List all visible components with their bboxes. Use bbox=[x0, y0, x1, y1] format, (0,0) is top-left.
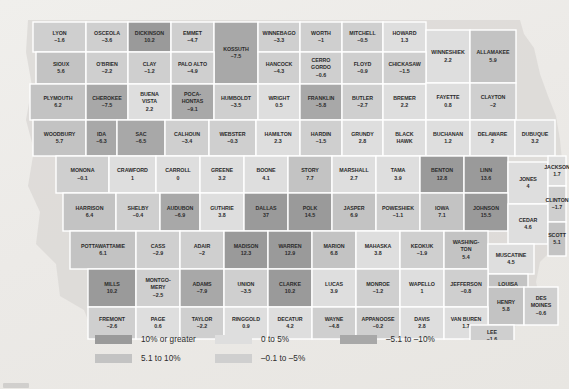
county-pocahontas[interactable]: POCA-HONTAS–9.1 bbox=[171, 84, 214, 120]
county-winneshiek[interactable]: WINNESHIEK2.2 bbox=[426, 30, 470, 83]
county-adams[interactable]: ADAMS–7.9 bbox=[180, 269, 224, 307]
county-clay[interactable]: CLAY–1.2 bbox=[128, 52, 171, 84]
county-value-jefferson: –0.8 bbox=[461, 288, 471, 294]
legend-column-1: 10% or greater 5.1 to 10% bbox=[95, 332, 196, 370]
county-ida[interactable]: IDA–6.3 bbox=[86, 120, 117, 156]
county-value-johnson: 15.5 bbox=[481, 212, 491, 218]
county-delaware[interactable]: DELAWARE2 bbox=[470, 120, 515, 156]
county-monroe[interactable]: MONROE–1.2 bbox=[356, 269, 400, 307]
county-mills[interactable]: MILLS10.2 bbox=[88, 269, 136, 307]
county-crawford[interactable]: CRAWFORD1 bbox=[109, 156, 156, 193]
county-obrien[interactable]: O’BRIEN–2.2 bbox=[86, 52, 128, 84]
county-dallas[interactable]: DALLAS37 bbox=[244, 193, 288, 231]
county-worth[interactable]: WORTH–1 bbox=[300, 22, 342, 52]
county-dubuque[interactable]: DUBUQUE3.2 bbox=[515, 120, 555, 156]
county-poweshiek[interactable]: POWESHIEK–1.1 bbox=[376, 193, 420, 231]
county-butler[interactable]: BUTLER–2.7 bbox=[342, 84, 383, 120]
county-cass[interactable]: CASS–2.9 bbox=[136, 231, 180, 269]
county-cherokee[interactable]: CHEROKEE–7.5 bbox=[86, 84, 128, 120]
county-marshall[interactable]: MARSHALL2.7 bbox=[332, 156, 376, 193]
county-hardin[interactable]: HARDIN–1.5 bbox=[300, 120, 342, 156]
county-hancock[interactable]: HANCOCK–4.3 bbox=[258, 52, 300, 84]
county-sioux[interactable]: SIOUX5.6 bbox=[36, 52, 86, 84]
county-linn[interactable]: LINN13.6 bbox=[464, 156, 508, 193]
county-mitchell[interactable]: MITCHELL–0.5 bbox=[342, 22, 383, 52]
county-johnson[interactable]: JOHNSON15.5 bbox=[464, 193, 508, 231]
county-emmet[interactable]: EMMET–4.7 bbox=[171, 22, 214, 52]
county-marion[interactable]: MARION6.8 bbox=[312, 231, 356, 269]
county-name-winnebago: WINNEBAGO bbox=[262, 30, 295, 36]
county-allamakee[interactable]: ALLAMAKEE5.9 bbox=[470, 30, 516, 83]
county-lucas[interactable]: LUCAS3.9 bbox=[312, 269, 356, 307]
county-dickinson[interactable]: DICKINSON10.2 bbox=[128, 22, 171, 52]
county-calhoun[interactable]: CALHOUN–3.4 bbox=[165, 120, 209, 156]
county-name-davis: DAVIS bbox=[414, 316, 430, 322]
county-carroll[interactable]: CARROLL0 bbox=[156, 156, 200, 193]
county-franklin[interactable]: FRANKLIN–5.8 bbox=[300, 84, 342, 120]
county-kossuth[interactable]: KOSSUTH–7.5 bbox=[214, 22, 258, 84]
county-wapello[interactable]: WAPELLO1 bbox=[400, 269, 444, 307]
county-bremer[interactable]: BREMER2.2 bbox=[383, 84, 426, 120]
county-hamilton[interactable]: HAMILTON2.3 bbox=[256, 120, 300, 156]
county-jasper[interactable]: JASPER6.9 bbox=[332, 193, 376, 231]
county-grundy[interactable]: GRUNDY2.8 bbox=[342, 120, 383, 156]
county-value-monona: –0.1 bbox=[77, 175, 87, 181]
county-jackson[interactable]: JACKSON1.7 bbox=[544, 156, 569, 186]
county-keokuk[interactable]: KEOKUK–1.9 bbox=[400, 231, 444, 269]
county-jones[interactable]: JONES4 bbox=[508, 162, 548, 204]
county-sac[interactable]: SAC–6.5 bbox=[117, 120, 165, 156]
county-cerrogordo[interactable]: CERROGORDO–0.6 bbox=[300, 52, 342, 84]
county-wright[interactable]: WRIGHT0.5 bbox=[258, 84, 300, 120]
county-washington[interactable]: WASHING-TON5.4 bbox=[444, 231, 488, 269]
county-blackhawk[interactable]: BLACKHAWK bbox=[383, 120, 426, 156]
county-montgomery[interactable]: MONTGO-MERY–2.5 bbox=[136, 269, 180, 307]
county-winnebago[interactable]: WINNEBAGO–3.3 bbox=[258, 22, 300, 52]
county-greene[interactable]: GREENE3.2 bbox=[200, 156, 244, 193]
county-story[interactable]: STORY7.7 bbox=[288, 156, 332, 193]
county-mahaska[interactable]: MAHASKA3.8 bbox=[356, 231, 400, 269]
county-clarke[interactable]: CLARKE10.2 bbox=[268, 269, 312, 307]
county-warren[interactable]: WARREN12.9 bbox=[268, 231, 312, 269]
county-cedar[interactable]: CEDAR4.6 bbox=[508, 204, 548, 244]
county-desmoines[interactable]: DESMOINES–0.6 bbox=[524, 287, 558, 325]
county-muscatine[interactable]: MUSCATINE4.5 bbox=[488, 244, 534, 274]
county-pottawattamie[interactable]: POTTAWATTAMIE6.1 bbox=[70, 231, 136, 269]
county-shelby[interactable]: SHELBY–0.4 bbox=[116, 193, 160, 231]
county-fayette[interactable]: FAYETTE0.8 bbox=[426, 83, 470, 120]
county-buenavista[interactable]: BUENAVISTA2.2 bbox=[128, 84, 171, 120]
county-union[interactable]: UNION–3.5 bbox=[224, 269, 268, 307]
county-benton[interactable]: BENTON12.8 bbox=[420, 156, 464, 193]
county-audubon[interactable]: AUDUBON–6.9 bbox=[160, 193, 200, 231]
county-scott[interactable]: SCOTT5.1 bbox=[548, 222, 567, 256]
county-webster[interactable]: WEBSTER–0.3 bbox=[209, 120, 256, 156]
county-adair[interactable]: ADAIR–2 bbox=[180, 231, 224, 269]
county-value-emmet: –4.7 bbox=[187, 37, 197, 43]
county-polk[interactable]: POLK14.5 bbox=[288, 193, 332, 231]
county-jefferson[interactable]: JEFFERSON–0.8 bbox=[444, 269, 488, 307]
county-clinton[interactable]: CLINTON–1.7 bbox=[545, 186, 568, 222]
county-howard[interactable]: HOWARD1.3 bbox=[383, 22, 426, 52]
county-buchanan[interactable]: BUCHANAN1.2 bbox=[426, 120, 470, 156]
county-name-dickinson: DICKINSON bbox=[135, 30, 164, 36]
county-iowa[interactable]: IOWA7.1 bbox=[420, 193, 464, 231]
county-osceola[interactable]: OSCEOLA–3.6 bbox=[86, 22, 128, 52]
county-monona[interactable]: MONONA–0.1 bbox=[56, 156, 109, 193]
county-harrison[interactable]: HARRISON6.4 bbox=[63, 193, 116, 231]
county-guthrie[interactable]: GUTHRIE3.8 bbox=[200, 193, 244, 231]
county-tama[interactable]: TAMA3.9 bbox=[376, 156, 420, 193]
county-humboldt[interactable]: HUMBOLDT–3.5 bbox=[214, 84, 258, 120]
county-woodbury[interactable]: WOODBURY5.7 bbox=[33, 120, 86, 156]
county-paloalto[interactable]: PALO ALTO–4.9 bbox=[171, 52, 214, 84]
county-lyon[interactable]: LYON–1.6 bbox=[33, 22, 86, 52]
legend-label-tier4: –0.1 to –5% bbox=[261, 354, 305, 363]
county-name-cerrogordo: GORDO bbox=[311, 64, 331, 70]
county-boone[interactable]: BOONE4.1 bbox=[244, 156, 288, 193]
county-chickasaw[interactable]: CHICKASAW–1.5 bbox=[383, 52, 426, 84]
county-name-woodbury: WOODBURY bbox=[44, 131, 76, 137]
county-floyd[interactable]: FLOYD–0.9 bbox=[342, 52, 383, 84]
county-henry[interactable]: HENRY5.8 bbox=[488, 287, 524, 325]
county-madison[interactable]: MADISON12.3 bbox=[224, 231, 268, 269]
county-plymouth[interactable]: PLYMOUTH6.2 bbox=[30, 84, 86, 120]
county-name-blackhawk: HAWK bbox=[397, 138, 413, 144]
county-clayton[interactable]: CLAYTON–2 bbox=[470, 83, 516, 120]
